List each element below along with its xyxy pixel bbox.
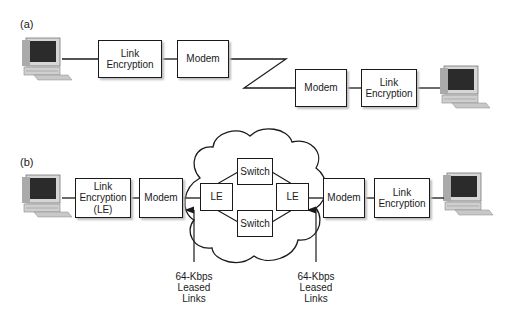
annotation-line: Links xyxy=(288,293,344,304)
le-box-right: LE xyxy=(276,183,309,211)
panel-b-label: (b) xyxy=(20,156,33,168)
modem-box-b-right: Modem xyxy=(323,178,365,218)
switch-box-top: Switch xyxy=(237,158,273,185)
box-label-line: Link xyxy=(106,48,153,60)
leased-link-annotation-left: 64-Kbps Leased Links xyxy=(166,271,222,304)
panel-a-label: (a) xyxy=(20,18,33,30)
box-label-line: Link xyxy=(378,187,425,199)
box-label: Modem xyxy=(186,53,219,65)
link-encryption-box-b-left: Link Encryption (LE) xyxy=(75,178,131,218)
annotation-line: Leased xyxy=(288,282,344,293)
leased-link-annotation-right: 64-Kbps Leased Links xyxy=(288,271,344,304)
box-label-line: Link xyxy=(365,77,412,89)
switch-box-bottom: Switch xyxy=(237,210,273,237)
box-label: Modem xyxy=(327,192,360,204)
link-encryption-box-b-right: Link Encryption xyxy=(374,178,430,218)
box-label-line: Link xyxy=(79,181,126,193)
box-label: Modem xyxy=(144,192,177,204)
link-encryption-box-a-left: Link Encryption xyxy=(98,40,162,78)
box-label: LE xyxy=(210,191,222,203)
box-label-line: Encryption xyxy=(106,59,153,71)
box-label-line: (LE) xyxy=(79,204,126,216)
computer-icon xyxy=(22,175,72,217)
modem-box-a-right: Modem xyxy=(295,69,347,107)
modem-box-a-left: Modem xyxy=(177,40,229,78)
box-label-line: Encryption xyxy=(365,88,412,100)
annotation-line: 64-Kbps xyxy=(166,271,222,282)
box-label: LE xyxy=(286,191,298,203)
annotation-line: 64-Kbps xyxy=(288,271,344,282)
box-label: Switch xyxy=(240,166,269,178)
annotation-line: Links xyxy=(166,293,222,304)
box-label-line: Encryption xyxy=(79,192,126,204)
box-label: Switch xyxy=(240,218,269,230)
computer-icon xyxy=(443,173,493,215)
le-box-left: LE xyxy=(200,183,233,211)
modem-box-b-left: Modem xyxy=(139,178,183,218)
annotation-line: Leased xyxy=(166,282,222,293)
box-label-line: Encryption xyxy=(378,198,425,210)
computer-icon xyxy=(440,66,490,108)
box-label: Modem xyxy=(304,82,337,94)
link-encryption-box-a-right: Link Encryption xyxy=(361,69,417,107)
